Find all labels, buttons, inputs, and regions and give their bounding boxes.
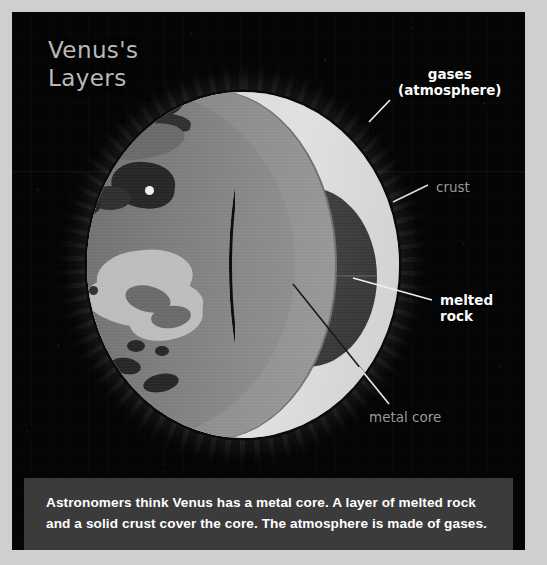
page-title: Venus's Layers <box>48 36 138 92</box>
figure-page: Venus's Layers <box>0 0 547 565</box>
figure-frame: Venus's Layers <box>12 12 525 550</box>
figure-caption: Astronomers think Venus has a metal core… <box>24 478 513 550</box>
texture-scanlines <box>87 92 399 438</box>
label-gases-atmosphere: gases (atmosphere) <box>398 67 502 99</box>
label-metal-core: metal core <box>369 410 441 426</box>
label-crust: crust <box>436 180 470 196</box>
venus-globe <box>87 92 399 438</box>
label-melted-rock: melted rock <box>440 293 493 325</box>
venus-diagram <box>87 92 399 438</box>
